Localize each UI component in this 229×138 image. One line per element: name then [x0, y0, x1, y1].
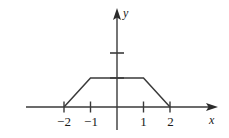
x-tick-label-2: 2 — [163, 115, 178, 128]
x-tick-label-1: 1 — [136, 115, 151, 128]
x-tick-label-minus1: −1 — [79, 115, 103, 128]
x-axis-label: x — [209, 114, 214, 126]
graph-figure: −2 −1 1 2 x y — [0, 0, 229, 138]
y-axis-label: y — [123, 7, 128, 19]
x-tick-label-minus2: −2 — [52, 115, 76, 128]
plot-area — [0, 0, 229, 138]
